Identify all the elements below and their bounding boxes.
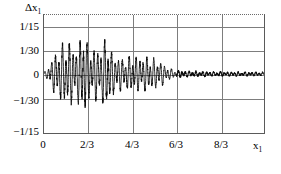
- y-tick-1-15: 1/15: [0, 21, 39, 32]
- figure-root: Δx1 1/15 1/30 0 −1/30 −1/15 0 2/3: [0, 0, 281, 174]
- y-tick-label: 1/15: [19, 21, 39, 32]
- y-tick-1-30: 1/30: [0, 45, 39, 56]
- y-tick-neg-1-30: −1/30: [0, 95, 39, 106]
- y-axis-title-text: Δx: [25, 1, 38, 13]
- x-tick-2-3: 2/3: [67, 139, 107, 150]
- signal-curve: [44, 15, 264, 133]
- x-tick-6-3: 6/3: [156, 139, 196, 150]
- y-tick-label: −1/15: [13, 126, 39, 137]
- x-tick-label: 6/3: [169, 138, 183, 150]
- y-tick-label: 1/30: [19, 45, 39, 56]
- y-axis-title: Δx1: [25, 2, 41, 17]
- x-tick-4-3: 4/3: [112, 139, 152, 150]
- x-tick-label: 0: [40, 138, 46, 150]
- y-tick-0: 0: [0, 69, 39, 80]
- signal-curve-path: [44, 39, 264, 107]
- y-tick-label: 0: [34, 69, 40, 80]
- x-tick-label: 4/3: [125, 138, 139, 150]
- x-tick-label: 2/3: [80, 138, 94, 150]
- y-tick-label: −1/30: [13, 95, 39, 106]
- plot-area: [43, 14, 265, 134]
- x-axis-title-subscript: 1: [259, 145, 263, 154]
- x-axis-title: x1: [253, 140, 262, 155]
- y-tick-neg-1-15: −1/15: [0, 126, 39, 137]
- x-tick-label: 8/3: [214, 138, 228, 150]
- x-tick-0: 0: [23, 139, 63, 150]
- y-axis-title-subscript: 1: [38, 7, 42, 16]
- x-tick-8-3: 8/3: [201, 139, 241, 150]
